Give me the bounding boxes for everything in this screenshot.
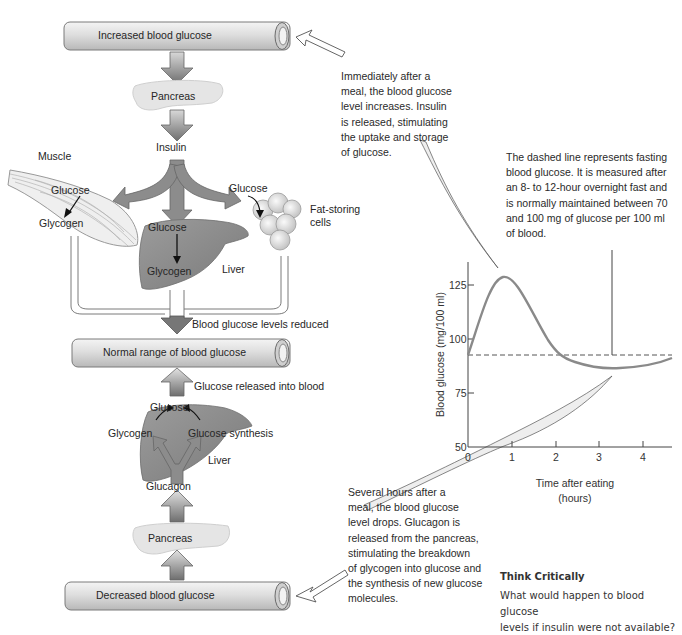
note-hours-after: Several hours after a meal, the blood gl… <box>348 485 482 607</box>
liver-bottom-glucose-label: Glucose <box>150 401 189 414</box>
y-tick-125: 125 <box>449 279 467 291</box>
note-fasting-line: The dashed line represents fasting blood… <box>506 150 668 241</box>
x-tick-4: 4 <box>640 451 646 463</box>
fat-storing-cells-label: Fat-storing cells <box>310 203 360 229</box>
muscle-illustration <box>8 170 138 246</box>
callout-arrow-bottom <box>296 570 348 602</box>
blood-glucose-chart <box>468 250 672 447</box>
arrow-down-icon <box>161 110 193 141</box>
x-tick-2: 2 <box>553 451 559 463</box>
muscle-label: Muscle <box>38 150 71 163</box>
x-tick-3: 3 <box>596 451 602 463</box>
liver-label-top: Liver <box>222 263 245 276</box>
insulin-label: Insulin <box>156 141 186 154</box>
pancreas-label-bottom: Pancreas <box>148 532 192 545</box>
insulin-branch-arrows <box>113 160 241 226</box>
tube-label-top: Increased blood glucose <box>98 29 212 42</box>
y-tick-100: 100 <box>449 333 467 345</box>
fat-cells-illustration <box>253 193 301 250</box>
callout-arrow-top <box>296 30 345 57</box>
y-axis-title: Blood glucose (mg/100 ml) <box>434 292 446 417</box>
liver-label-bottom: Liver <box>208 454 231 467</box>
think-critically-title: Think Critically <box>500 571 585 582</box>
x-tick-0: 0 <box>465 451 471 463</box>
glucose-curve <box>468 277 672 368</box>
y-tick-75: 75 <box>455 387 467 399</box>
glucose-synthesis-label: Glucose synthesis <box>188 427 273 440</box>
muscle-glycogen-label: Glycogen <box>39 217 83 230</box>
tube-label-middle: Normal range of blood glucose <box>103 346 246 359</box>
x-axis-title: Time after eating (hours) <box>520 476 630 506</box>
fat-glucose-label: Glucose <box>229 182 268 195</box>
arrow-down-icon <box>161 316 193 334</box>
arrow-up-icon <box>161 550 193 580</box>
note-after-meal: Immediately after a meal, the blood gluc… <box>341 69 452 160</box>
think-critically-question: What would happen to blood glucose level… <box>500 588 682 635</box>
glucagon-label: Glucagon <box>146 480 191 493</box>
liver-glycogen-label: Glycogen <box>147 265 191 278</box>
x-tick-1: 1 <box>509 451 515 463</box>
muscle-glucose-label: Glucose <box>51 184 90 197</box>
liver-bottom-glycogen-label: Glycogen <box>108 427 152 440</box>
arrow-down-icon <box>161 52 193 84</box>
blood-glucose-reduced-label: Blood glucose levels reduced <box>192 318 329 331</box>
glucose-released-label: Glucose released into blood <box>194 380 324 393</box>
arrow-up-icon <box>161 490 193 522</box>
liver-glucose-label: Glucose <box>148 221 187 234</box>
arrow-up-icon <box>161 368 193 396</box>
pancreas-label-top: Pancreas <box>151 90 195 103</box>
tube-label-bottom: Decreased blood glucose <box>96 589 215 602</box>
